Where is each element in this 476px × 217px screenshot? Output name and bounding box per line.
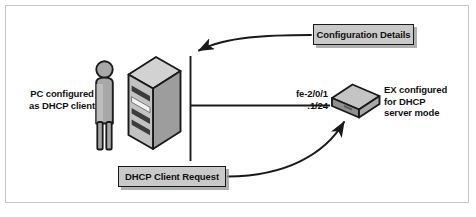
label-pc-configured: PC configured as DHCP client <box>18 88 106 111</box>
person-leg-right <box>106 122 111 150</box>
arrow-dhcp-request-to-switch <box>228 122 344 177</box>
server-tower-icon <box>129 57 181 149</box>
label-interface-name: fe-2/0/1 <box>262 88 328 100</box>
ex-switch-icon <box>332 85 380 118</box>
label-interface-address: .1/24 <box>262 100 328 112</box>
arrow-configuration-details-to-server <box>199 35 311 51</box>
callout-dhcp-client-request-text: DHCP Client Request <box>125 171 219 182</box>
callout-configuration-details-text: Configuration Details <box>317 29 411 40</box>
label-ex-configured: EX configured for DHCP server mode <box>384 84 468 119</box>
callout-configuration-details: Configuration Details <box>313 24 414 45</box>
dhcp-network-diagram: PC configured as DHCP client EX configur… <box>0 0 476 217</box>
person-leg-left <box>97 122 102 150</box>
callout-dhcp-client-request: DHCP Client Request <box>118 166 226 187</box>
